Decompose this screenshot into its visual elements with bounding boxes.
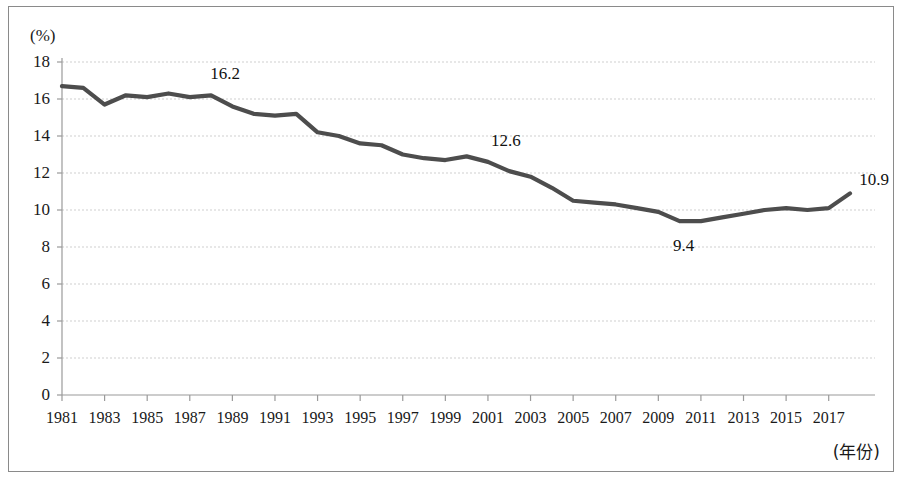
y-tick-label: 6 bbox=[16, 274, 50, 294]
x-tick-label: 2005 bbox=[557, 409, 589, 427]
x-tick-label: 1993 bbox=[302, 409, 334, 427]
x-tick-label: 1987 bbox=[174, 409, 206, 427]
x-tick-label: 1995 bbox=[344, 409, 376, 427]
x-tick-marks-group bbox=[62, 395, 829, 401]
x-tick-label: 1999 bbox=[429, 409, 461, 427]
x-tick-label: 1985 bbox=[131, 409, 163, 427]
x-tick-label: 1989 bbox=[216, 409, 248, 427]
x-tick-label: 2007 bbox=[600, 409, 632, 427]
y-tick-label: 10 bbox=[16, 200, 50, 220]
y-tick-label: 2 bbox=[16, 348, 50, 368]
y-tick-label: 0 bbox=[16, 385, 50, 405]
y-tick-label: 4 bbox=[16, 311, 50, 331]
x-tick-label: 1991 bbox=[259, 409, 291, 427]
y-tick-label: 14 bbox=[16, 126, 50, 146]
x-tick-label: 1997 bbox=[387, 409, 419, 427]
y-tick-label: 8 bbox=[16, 237, 50, 257]
data-point-label: 9.4 bbox=[673, 236, 694, 256]
x-tick-label: 2009 bbox=[642, 409, 674, 427]
x-tick-label: 2017 bbox=[813, 409, 845, 427]
x-tick-label: 1983 bbox=[89, 409, 121, 427]
y-tick-label: 12 bbox=[16, 163, 50, 183]
chart-page: (%) (年份) 024681012141618 198119831985198… bbox=[0, 0, 902, 479]
x-tick-label: 2001 bbox=[472, 409, 504, 427]
x-tick-label: 2003 bbox=[515, 409, 547, 427]
x-tick-label: 2011 bbox=[685, 409, 716, 427]
x-tick-label: 2013 bbox=[728, 409, 760, 427]
y-tick-label: 16 bbox=[16, 89, 50, 109]
y-tick-label: 18 bbox=[16, 52, 50, 72]
data-point-label: 16.2 bbox=[210, 64, 240, 84]
data-point-label: 12.6 bbox=[491, 131, 521, 151]
data-point-label: 10.9 bbox=[859, 170, 889, 190]
birth-rate-series-line bbox=[62, 86, 850, 221]
line-chart-plot: 024681012141618 198119831985198719891991… bbox=[0, 0, 902, 479]
x-tick-label: 1981 bbox=[46, 409, 78, 427]
axes-group bbox=[57, 58, 875, 395]
plot-svg bbox=[0, 0, 902, 479]
x-tick-label: 2015 bbox=[770, 409, 802, 427]
